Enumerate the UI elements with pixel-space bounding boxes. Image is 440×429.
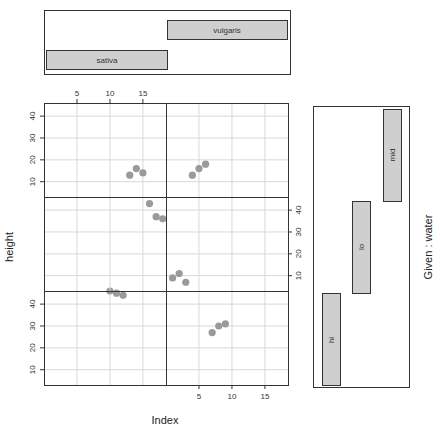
- data-point: [146, 200, 153, 207]
- data-point: [189, 172, 196, 179]
- tick-label: 10: [105, 89, 114, 98]
- tick-label: 15: [138, 89, 147, 98]
- tick-label: 5: [197, 392, 202, 401]
- panel-border: [167, 292, 289, 386]
- data-point: [195, 165, 202, 172]
- data-point: [202, 161, 209, 168]
- data-point: [215, 322, 222, 329]
- given-bar-sativa-label: sativa: [97, 56, 118, 65]
- data-point: [169, 274, 176, 281]
- tick-label: 15: [260, 392, 269, 401]
- data-point: [133, 165, 140, 172]
- data-point: [209, 329, 216, 336]
- panel-sativa-hi: [44, 287, 166, 385]
- panel-sativa-lo: [44, 197, 166, 291]
- tick-label: 20: [294, 249, 303, 258]
- given-water-label: Given : water: [422, 214, 434, 279]
- data-point: [153, 213, 160, 220]
- given-bar-vulgaris-label: vulgaris: [213, 26, 241, 35]
- panel-border: [45, 198, 167, 292]
- panel-border: [45, 104, 167, 198]
- data-point: [113, 290, 120, 297]
- y-axis-label: height: [3, 232, 15, 262]
- panel-border: [167, 198, 289, 292]
- tick-label: 30: [28, 321, 37, 330]
- panel-vulgaris-hi: [166, 291, 288, 385]
- given-bar-lo-label: lo: [357, 243, 366, 250]
- water-given-panel: hi lo mid: [314, 107, 410, 388]
- given-bar-hi-label: hi: [327, 337, 336, 343]
- species-given-panel: vulgaris sativa: [45, 11, 291, 75]
- panel-vulgaris-mid: [166, 103, 288, 197]
- tick-label: 10: [28, 365, 37, 374]
- panel-border: [167, 104, 289, 198]
- tick-label: 5: [75, 89, 80, 98]
- panel-border: [45, 292, 167, 386]
- panel-vulgaris-lo: [166, 197, 288, 291]
- tick-label: 10: [28, 177, 37, 186]
- tick-label: 10: [294, 271, 303, 280]
- x-axis-label: Index: [152, 414, 179, 426]
- tick-label: 10: [227, 392, 236, 401]
- tick-label: 30: [28, 133, 37, 142]
- data-point: [120, 292, 127, 299]
- tick-label: 20: [28, 343, 37, 352]
- coplot-chart: vulgaris sativa hi lo mid 55101015151010…: [0, 0, 440, 429]
- data-point: [139, 169, 146, 176]
- given-bar-mid-label: mid: [388, 149, 397, 162]
- data-point: [176, 270, 183, 277]
- tick-label: 40: [294, 205, 303, 214]
- tick-label: 20: [28, 155, 37, 164]
- tick-label: 40: [28, 111, 37, 120]
- panel-sativa-mid: [44, 103, 166, 197]
- data-point: [126, 172, 133, 179]
- tick-label: 30: [294, 227, 303, 236]
- data-point: [222, 320, 229, 327]
- axes: 5510101515101010202020303030404040: [28, 89, 303, 401]
- tick-label: 40: [28, 299, 37, 308]
- data-point: [182, 279, 189, 286]
- data-point: [159, 215, 166, 222]
